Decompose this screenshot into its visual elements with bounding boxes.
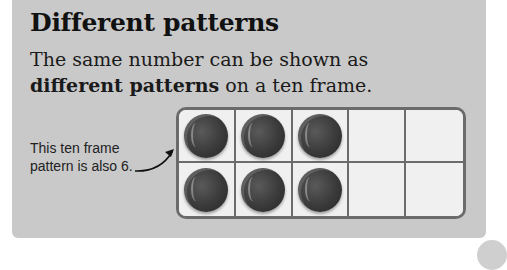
ten-frame-cell <box>293 163 350 216</box>
counter-icon <box>184 168 228 212</box>
ten-frame <box>176 107 466 219</box>
description: The same number can be shown as differen… <box>30 46 490 98</box>
description-text-1: The same number can be shown as <box>30 48 368 70</box>
annotation-label: This ten frame pattern is also 6. <box>30 139 133 175</box>
description-bold: different patterns <box>30 74 219 96</box>
ten-frame-cell <box>179 110 236 163</box>
ten-frame-cell <box>179 163 236 216</box>
ten-frame-cell <box>349 163 406 216</box>
ten-frame-cell <box>236 110 293 163</box>
ten-frame-cell <box>236 163 293 216</box>
ten-frame-cell <box>406 163 463 216</box>
annotation-line-2: pattern is also 6. <box>30 157 133 175</box>
counter-icon <box>184 114 228 158</box>
counter-icon <box>241 114 285 158</box>
description-text-2: on a ten frame. <box>219 74 372 96</box>
corner-decoration <box>477 240 507 270</box>
counter-icon <box>241 168 285 212</box>
page-title: Different patterns <box>30 8 279 37</box>
ten-frame-cell <box>349 110 406 163</box>
counter-icon <box>298 114 342 158</box>
ten-frame-cell <box>406 110 463 163</box>
ten-frame-cell <box>293 110 350 163</box>
annotation-line-1: This ten frame <box>30 139 133 157</box>
counter-icon <box>298 168 342 212</box>
